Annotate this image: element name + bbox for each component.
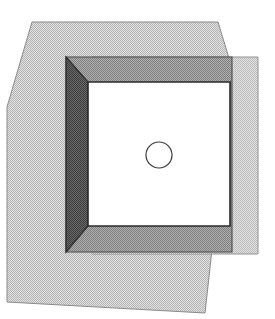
cube-front-face — [88, 82, 230, 226]
geometric-figure-svg — [0, 0, 275, 319]
figure-canvas — [0, 0, 275, 319]
cube-left-side-face — [66, 57, 88, 252]
